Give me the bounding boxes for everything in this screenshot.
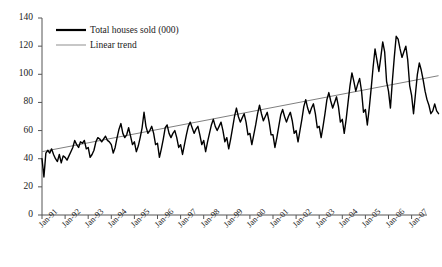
y-axis-tick-label: 120 bbox=[0, 41, 33, 51]
y-axis-tick-label: 100 bbox=[0, 69, 33, 79]
legend-label-trend: Linear trend bbox=[90, 41, 137, 51]
y-axis-tick-label: 140 bbox=[0, 13, 33, 23]
y-axis-tick-label: 80 bbox=[0, 97, 33, 107]
linear-trend-line bbox=[42, 76, 439, 152]
total-houses-sold-series bbox=[42, 36, 439, 177]
y-axis-tick-label: 60 bbox=[0, 126, 33, 136]
legend-swatches bbox=[56, 30, 86, 45]
y-axis-tick-label: 40 bbox=[0, 154, 33, 164]
y-axis-tick-label: 0 bbox=[0, 210, 33, 220]
y-axis-ticks bbox=[38, 18, 42, 215]
legend-label-series: Total houses sold (000) bbox=[90, 26, 179, 36]
y-axis-tick-label: 20 bbox=[0, 182, 33, 192]
chart-container: Total houses sold (000) Linear trend 020… bbox=[0, 0, 442, 267]
